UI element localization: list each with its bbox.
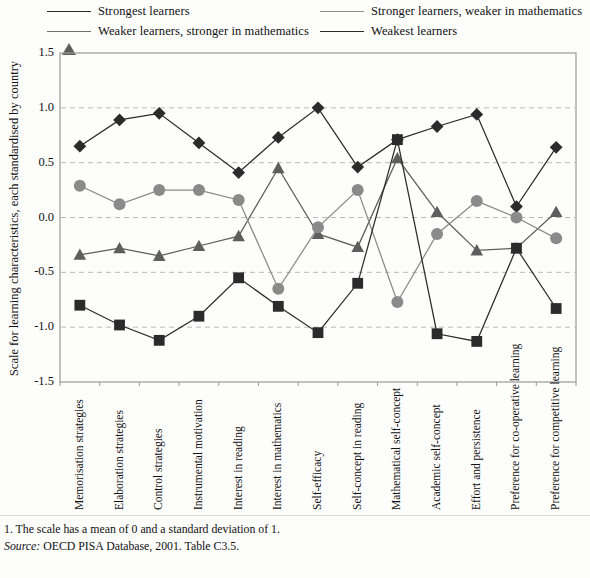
source-line: Source: OECD PISA Database, 2001. Table … bbox=[4, 538, 584, 555]
chart-plot-area: Scale for learning characteristics, each… bbox=[0, 0, 590, 578]
series-circle bbox=[74, 180, 562, 308]
series-diamond bbox=[73, 101, 562, 213]
source-text: OECD PISA Database, 2001. Table C3.5. bbox=[40, 539, 239, 553]
footnote-scale: 1. The scale has a mean of 0 and a stand… bbox=[4, 521, 584, 538]
chart-footer: 1. The scale has a mean of 0 and a stand… bbox=[4, 521, 584, 555]
series-square bbox=[74, 134, 561, 347]
line-chart-svg bbox=[0, 0, 590, 578]
footer-divider bbox=[0, 515, 590, 516]
source-label: Source: bbox=[4, 539, 40, 553]
